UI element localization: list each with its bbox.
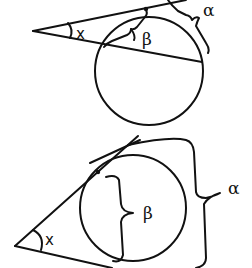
- alpha-brace-bottom: [128, 139, 220, 268]
- angle-label-x-top: x: [76, 25, 85, 43]
- beta-brace-bottom: [106, 176, 133, 261]
- angle-arc-bottom: [33, 230, 42, 250]
- angle-arc-top: [68, 23, 72, 38]
- tangent-line-top: [33, 0, 186, 31]
- tangent-point-bottom: [96, 170, 100, 174]
- angle-label-x-bottom: x: [45, 231, 54, 249]
- diagram-two-tangents: x β α: [15, 136, 240, 268]
- beta-label-top: β: [142, 29, 152, 49]
- diagram-tangent-secant: x β α: [33, 0, 215, 125]
- lower-tangent-line-bottom: [15, 246, 112, 268]
- alpha-label-bottom: α: [228, 178, 240, 198]
- beta-brace-tip-top: [131, 29, 135, 40]
- circle-bottom: [80, 155, 186, 261]
- geometry-figure: x β α x β α: [0, 0, 252, 268]
- alpha-label-top: α: [203, 0, 215, 20]
- secant-line-top: [33, 31, 202, 62]
- beta-label-bottom: β: [143, 203, 153, 223]
